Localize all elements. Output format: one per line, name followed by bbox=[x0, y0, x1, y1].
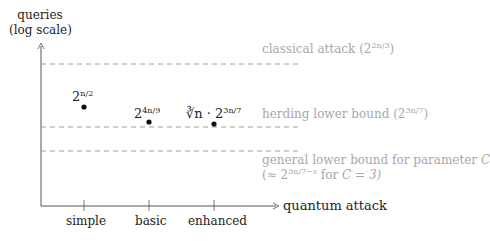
point-label-basic: 24n/9 bbox=[134, 107, 160, 120]
point-enhanced bbox=[211, 121, 216, 126]
y-axis bbox=[38, 43, 44, 206]
close: ) bbox=[424, 107, 429, 121]
tick-label-basic: basic bbox=[135, 215, 167, 227]
exponent: 3n/7−s bbox=[288, 167, 317, 176]
tick-label-enhanced: enhanced bbox=[188, 215, 247, 227]
exponent: 3n/7 bbox=[405, 106, 423, 115]
post: for bbox=[317, 168, 342, 182]
param: C bbox=[481, 153, 490, 167]
y-axis-label-line1: queries bbox=[9, 9, 71, 21]
pre: (≈ bbox=[262, 168, 281, 182]
close: ) bbox=[390, 42, 395, 56]
exponent: 3n/7 bbox=[223, 106, 241, 115]
y-axis-label-line2: (log scale) bbox=[9, 24, 71, 36]
herding-bound-label: herding lower bound (23n/7) bbox=[262, 108, 428, 120]
text: herding lower bound ( bbox=[262, 107, 398, 121]
point-basic bbox=[146, 119, 151, 124]
exponent: 4n/9 bbox=[142, 106, 160, 115]
text: classical attack ( bbox=[262, 42, 364, 56]
x-axis bbox=[41, 200, 279, 211]
general-bound-label: general lower bound for parameter C (≈ 2… bbox=[262, 154, 490, 181]
exponent: n/2 bbox=[80, 89, 93, 98]
x-axis-label: quantum attack bbox=[283, 199, 387, 212]
point-label-simple: 2n/2 bbox=[72, 90, 93, 103]
classical-bound-label: classical attack (22n/3) bbox=[262, 43, 394, 55]
line1: general lower bound for parameter C bbox=[262, 154, 490, 166]
point-simple bbox=[81, 104, 86, 109]
point-label-enhanced: ∛n · 23n/7 bbox=[186, 107, 241, 120]
tick-label-simple: simple bbox=[66, 215, 106, 227]
prefix: ∛n · bbox=[186, 106, 215, 121]
y-axis-label: queries (log scale) bbox=[9, 9, 71, 36]
line2: (≈ 23n/7−s for C = 3) bbox=[262, 169, 490, 181]
condition: C = 3) bbox=[342, 168, 381, 182]
exponent: 2n/3 bbox=[371, 41, 389, 50]
text: general lower bound for parameter bbox=[262, 153, 481, 167]
